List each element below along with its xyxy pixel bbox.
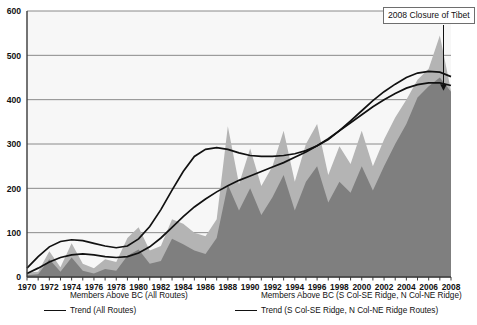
line-swatch-dark-icon [235,310,257,311]
everest-summits-area-chart: 0100200300400500600197019721974197619781… [0,0,477,325]
annotation-2008-closure-of-tibet: 2008 Closure of Tibet [383,7,475,24]
line-swatch-dark-icon [44,310,66,311]
ytick-label-300: 300 [7,139,22,149]
legend-item-members-col-ridge: Members Above BC (S Col-SE Ridge, N Col-… [235,289,462,302]
legend-label: Trend (All Routes) [70,306,136,315]
ytick-label-0: 0 [16,272,21,282]
xtick-label-1986: 1986 [196,282,215,292]
legend-item-trend-all-routes: Trend (All Routes) [44,304,188,317]
ytick-label-100: 100 [7,228,22,238]
chart-figure: 0100200300400500600197019721974197619781… [0,0,477,325]
legend-label: Members Above BC (S Col-SE Ridge, N Col-… [261,291,462,300]
legend-item-trend-col-ridge: Trend (S Col-SE Ridge, N Col-NE Ridge Ro… [235,304,462,317]
legend-right: Members Above BC (S Col-SE Ridge, N Col-… [235,289,462,319]
xtick-label-1970: 1970 [18,282,37,292]
legend-label: Members Above BC (All Routes) [70,291,188,300]
legend-item-members-all-routes: Members Above BC (All Routes) [44,289,188,302]
ytick-label-200: 200 [7,184,22,194]
area-swatch-dark-icon [235,292,257,300]
ytick-label-400: 400 [7,95,22,105]
legend-label: Trend (S Col-SE Ridge, N Col-NE Ridge Ro… [261,306,438,315]
annotation-label: 2008 Closure of Tibet [388,10,470,20]
area-swatch-light-icon [44,292,66,300]
ytick-label-500: 500 [7,51,22,61]
legend-left: Members Above BC (All Routes) Trend (All… [44,289,188,319]
ytick-label-600: 600 [7,6,22,16]
